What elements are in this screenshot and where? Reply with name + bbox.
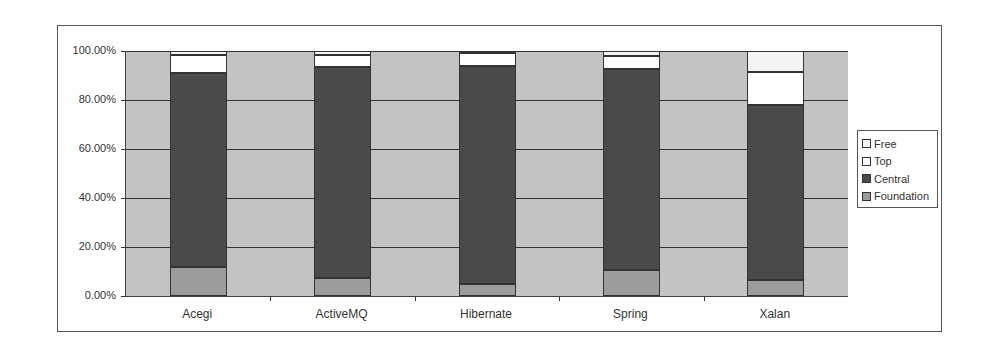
bar-acegi bbox=[170, 51, 227, 296]
x-tick-label: Spring bbox=[570, 307, 690, 321]
legend-swatch-icon bbox=[862, 174, 871, 183]
bar-segment-free bbox=[459, 51, 516, 53]
bar-hibernate bbox=[459, 51, 516, 296]
legend-item-foundation: Foundation bbox=[862, 188, 937, 206]
bar-segment-central bbox=[747, 105, 804, 280]
bar-segment-free bbox=[314, 51, 371, 55]
y-tick bbox=[121, 100, 126, 101]
bar-segment-foundation bbox=[170, 267, 227, 296]
bar-segment-top bbox=[170, 55, 227, 73]
legend-label: Free bbox=[874, 138, 897, 150]
x-tick bbox=[559, 296, 560, 301]
x-tick bbox=[704, 296, 705, 301]
y-tick-label: 100.00% bbox=[50, 44, 116, 56]
y-tick bbox=[121, 247, 126, 248]
bar-segment-central bbox=[459, 66, 516, 284]
bar-segment-top bbox=[747, 72, 804, 105]
legend-item-central: Central bbox=[862, 170, 937, 188]
y-tick bbox=[121, 149, 126, 150]
y-tick-label: 40.00% bbox=[50, 191, 116, 203]
y-tick bbox=[121, 296, 126, 297]
x-tick bbox=[415, 296, 416, 301]
bar-segment-free bbox=[170, 51, 227, 55]
legend-swatch-icon bbox=[862, 192, 871, 201]
bar-xalan bbox=[747, 51, 804, 296]
x-tick-label: ActiveMQ bbox=[282, 307, 402, 321]
x-tick bbox=[270, 296, 271, 301]
bar-segment-top bbox=[314, 55, 371, 67]
plot-area bbox=[125, 51, 848, 297]
legend: Free Top Central Foundation bbox=[857, 130, 938, 208]
bar-segment-free bbox=[603, 51, 660, 56]
y-tick bbox=[121, 51, 126, 52]
bar-segment-top bbox=[603, 56, 660, 69]
legend-item-top: Top bbox=[862, 153, 937, 171]
bar-segment-foundation bbox=[459, 284, 516, 296]
bar-segment-foundation bbox=[747, 280, 804, 296]
y-tick bbox=[121, 198, 126, 199]
y-tick-label: 60.00% bbox=[50, 142, 116, 154]
bar-segment-central bbox=[170, 73, 227, 267]
bar-segment-foundation bbox=[603, 270, 660, 296]
legend-label: Top bbox=[874, 155, 892, 167]
legend-swatch-icon bbox=[862, 157, 871, 166]
legend-label: Foundation bbox=[874, 190, 929, 202]
x-tick-label: Acegi bbox=[137, 307, 257, 321]
bar-segment-top bbox=[459, 53, 516, 65]
x-tick-label: Xalan bbox=[715, 307, 835, 321]
x-tick-label: Hibernate bbox=[426, 307, 546, 321]
bar-segment-free bbox=[747, 51, 804, 72]
bar-activemq bbox=[314, 51, 371, 296]
bar-segment-central bbox=[603, 69, 660, 270]
legend-label: Central bbox=[874, 173, 909, 185]
bar-spring bbox=[603, 51, 660, 296]
y-tick-label: 80.00% bbox=[50, 93, 116, 105]
legend-swatch-icon bbox=[862, 139, 871, 148]
y-tick-label: 0.00% bbox=[50, 289, 116, 301]
legend-item-free: Free bbox=[862, 135, 937, 153]
bar-segment-foundation bbox=[314, 278, 371, 296]
y-tick-label: 20.00% bbox=[50, 240, 116, 252]
bar-segment-central bbox=[314, 67, 371, 278]
